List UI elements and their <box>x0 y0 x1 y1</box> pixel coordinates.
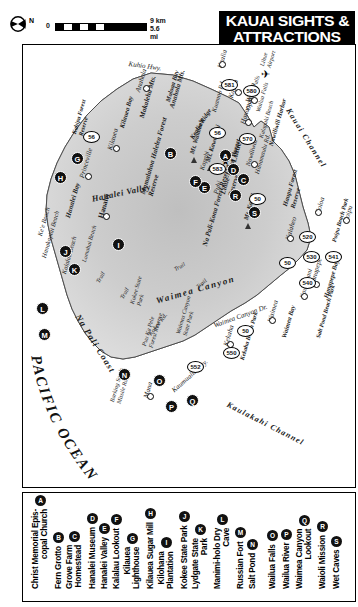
legend-label-q-1: Waimea Canyon <box>295 529 304 589</box>
legend-item-r[interactable]: Waioli Mission R <box>317 521 328 589</box>
map-marker-j[interactable]: J <box>59 245 72 258</box>
scale-bar: 0 9 km 5.6 mi <box>46 19 166 33</box>
map-marker-k[interactable]: K <box>68 263 81 276</box>
legend-item-l[interactable]: Manimi-holo DryCave L <box>213 514 231 589</box>
legend-marker-o: O <box>267 530 278 541</box>
town-dot-princeville <box>85 173 92 180</box>
legend-label-c-1: Grove Farm <box>65 545 74 589</box>
svg-text:N: N <box>29 17 34 24</box>
legend-label-r-1: Waioli Mission <box>318 535 327 589</box>
map-marker-s[interactable]: S <box>248 206 261 219</box>
legend-label-a-1: Christ Memorial Epis- <box>31 509 40 589</box>
legend-item-f[interactable]: Kalalau Lookout F <box>111 514 122 589</box>
route-shield-583: 583 <box>209 163 226 175</box>
scale-track <box>55 23 147 31</box>
legend-label-l-1: Manimi-holo Dry <box>213 528 222 589</box>
legend-label-d-1: Hanalei Museum <box>88 527 97 589</box>
legend-label-c-2: Homestead <box>74 545 83 589</box>
map-marker-r[interactable]: R <box>229 189 242 202</box>
legend-label-p-1: Wailua River <box>282 543 291 589</box>
legend-marker-k: K <box>195 524 206 535</box>
map-title-banner: KAUAI SIGHTS & ATTRACTIONS <box>219 11 355 46</box>
route-shield-50-a: 50 <box>249 193 266 205</box>
scale-mi-label: 5.6 mi <box>150 25 166 41</box>
route-shield-50-c: 50 <box>237 325 254 337</box>
legend-item-s[interactable]: Wet Caves S <box>331 536 342 589</box>
legend-label-s-1: Wet Caves <box>332 550 341 589</box>
town-dot-hanalei <box>103 213 110 220</box>
route-shield-550: 550 <box>223 347 240 359</box>
airplane-icon: ✈ <box>261 69 270 80</box>
town-dot-waimea <box>269 317 276 324</box>
legend-marker-q: Q <box>299 515 310 526</box>
page-title-line2: ATTRACTIONS <box>233 29 341 45</box>
legend-item-k[interactable]: Lydgate StatePark K <box>191 524 209 589</box>
map-marker-p[interactable]: P <box>165 400 178 413</box>
map-page: N 0 9 km 5.6 mi KAUAI SIGHTS & ATTRACTIO… <box>0 0 358 607</box>
scale-distance-labels: 9 km 5.6 mi <box>150 17 166 41</box>
legend-item-g[interactable]: KilaueaLighthouse G <box>123 533 141 589</box>
legend-item-q[interactable]: Waimea CanyonLookout Q <box>295 515 313 589</box>
compass-north-arrow: N <box>9 16 39 32</box>
legend-label-i-2: Plantation <box>166 551 175 589</box>
legend-panel: Christ Memorial Epis-copal Church A Fern… <box>22 492 356 602</box>
legend-item-m[interactable]: Russian Fort M <box>235 527 246 589</box>
map-header: N 0 9 km 5.6 mi KAUAI SIGHTS & ATTRACTIO… <box>0 0 358 46</box>
legend-item-a[interactable]: Christ Memorial Epis-copal Church A <box>31 495 49 589</box>
map-marker-i[interactable]: I <box>112 238 125 251</box>
town-dot-anahola <box>143 85 150 92</box>
legend-marker-a: A <box>35 495 46 506</box>
legend-item-h[interactable]: Kilauea Sugar Mill H <box>145 508 156 589</box>
map-marker-b[interactable]: B <box>164 147 177 160</box>
map-marker-q[interactable]: Q <box>186 394 199 407</box>
legend-marker-e: E <box>99 523 110 534</box>
town-dot-nawiliwili <box>251 161 258 168</box>
legend-item-e[interactable]: Hanalei Valley E <box>99 523 110 589</box>
legend-item-n[interactable]: Salt Pond N <box>247 539 258 589</box>
legend-item-o[interactable]: Wailua Falls O <box>267 530 278 589</box>
map-marker-o[interactable]: O <box>153 374 166 387</box>
legend-item-p[interactable]: Wailua River P <box>281 529 292 589</box>
legend-label-a-2: copal Church <box>40 509 49 589</box>
town-dot-mana <box>147 393 154 400</box>
town-dot-wailua <box>251 97 258 104</box>
scale-km-label: 9 km <box>150 17 166 25</box>
legend-label-j-1: Kokee State Park <box>180 525 189 589</box>
legend-item-d[interactable]: Hanalei Museum D <box>87 513 98 589</box>
map-marker-d[interactable]: D <box>227 163 240 176</box>
map-marker-l[interactable]: L <box>36 302 49 315</box>
town-dot-kilauea <box>113 145 120 152</box>
map-marker-a[interactable]: A <box>219 149 232 162</box>
peak-kahili-marker <box>245 223 251 229</box>
legend-marker-p: P <box>281 529 292 540</box>
legend-item-j[interactable]: Kokee State Park J <box>179 511 190 589</box>
peak-waialeale-marker <box>191 157 197 163</box>
legend-marker-d: D <box>87 513 98 524</box>
town-dot-kalaheo <box>287 235 294 242</box>
legend-item-c[interactable]: Grove FarmHomestead C <box>65 531 83 589</box>
legend-label-o-1: Wailua Falls <box>268 544 277 589</box>
legend-marker-m: M <box>235 527 246 538</box>
route-shield-581: 581 <box>221 79 238 91</box>
legend-marker-s: S <box>331 536 342 547</box>
legend-label-k-1: Lydgate State <box>191 538 200 589</box>
map-marker-n[interactable]: N <box>118 368 131 381</box>
map-canvas: PACIFIC OCEAN Kauai Channel Kaulakahi Ch… <box>23 45 355 487</box>
map-marker-g[interactable]: G <box>71 152 84 165</box>
legend-item-i[interactable]: KilohanaPlantation I <box>157 537 175 589</box>
legend-item-b[interactable]: Fern Grotto B <box>53 532 64 589</box>
map-marker-f[interactable]: F <box>189 175 202 188</box>
map-marker-h[interactable]: H <box>54 171 67 184</box>
map-marker-m[interactable]: M <box>38 328 51 341</box>
route-shield-541: 541 <box>325 251 342 263</box>
legend-marker-r: R <box>317 521 328 532</box>
legend-marker-g: G <box>127 533 138 544</box>
town-dot-poipu <box>343 217 350 224</box>
legend-marker-n: N <box>247 539 258 550</box>
legend-label-g-2: Lighthouse <box>132 547 141 589</box>
map-frame[interactable]: PACIFIC OCEAN Kauai Channel Kaulakahi Ch… <box>22 44 356 488</box>
legend-label-e-1: Hanalei Valley <box>100 537 109 589</box>
map-marker-c[interactable]: C <box>237 173 250 186</box>
legend-marker-f: F <box>111 514 122 525</box>
scale-zero-label: 0 <box>46 21 50 30</box>
